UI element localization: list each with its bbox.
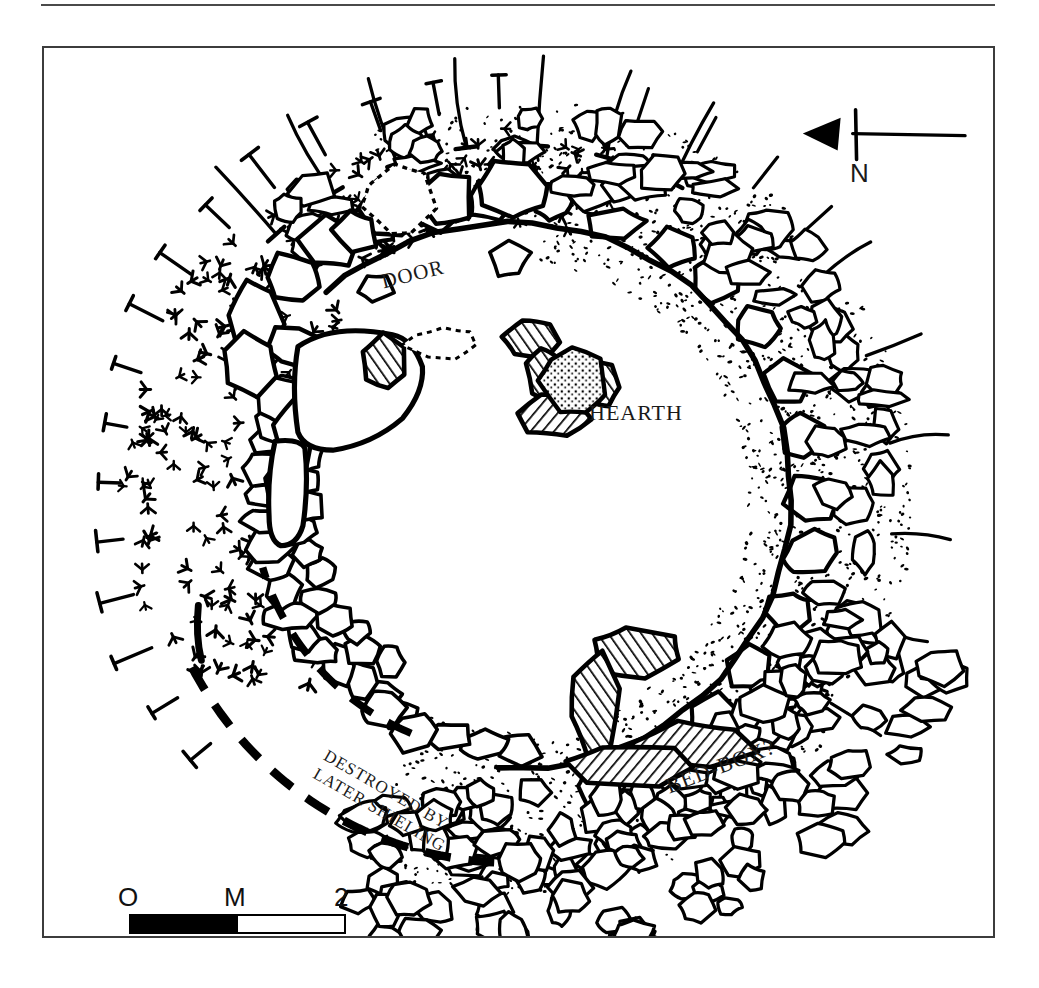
figure-frame: DOOR HEARTH BED-BOX? DESTROYED BY LATER …: [42, 46, 995, 938]
north-label: N: [850, 158, 870, 189]
scale-tick-label-mid: M: [224, 882, 246, 913]
scale-tick-label-end: 2: [334, 882, 348, 913]
page: DOOR HEARTH BED-BOX? DESTROYED BY LATER …: [0, 0, 1039, 988]
scale-tick-label-start: O: [118, 882, 138, 913]
label-hearth: HEARTH: [589, 400, 683, 426]
hatched-and-burnt-stones: [361, 164, 758, 786]
wall-lines: [326, 221, 791, 768]
top-horizontal-rule: [41, 4, 995, 6]
north-arrow: [803, 110, 965, 160]
scale-bar-filled-half: [131, 916, 238, 932]
scale-bar: [129, 914, 346, 934]
